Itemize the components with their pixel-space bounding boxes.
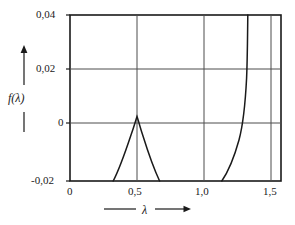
xtick-label-1_5: 1,5	[263, 186, 277, 197]
chart-figure: 0,04 0,02 0 -0,02 0 0,5 1,0 1,5 f(λ) λ	[0, 0, 295, 225]
y-axis-arrow-group	[21, 45, 28, 132]
up-arrow-icon	[21, 45, 28, 53]
x-axis-title: λ	[142, 203, 147, 218]
ytick-label-0: 0	[58, 117, 64, 128]
ytick-label-0_04: 0,04	[36, 9, 55, 20]
xtick-label-0: 0	[67, 186, 73, 197]
plot-frame	[70, 15, 281, 181]
xtick-label-1_0: 1,0	[195, 186, 209, 197]
right-arrow-icon	[184, 206, 192, 212]
ytick-label-m0_02: -0,02	[31, 175, 54, 186]
plot-canvas	[0, 0, 295, 225]
x-axis-arrow-group	[104, 206, 191, 212]
ytick-label-0_02: 0,02	[36, 63, 55, 74]
y-axis-title: f(λ)	[8, 91, 25, 106]
xtick-label-0_5: 0,5	[128, 186, 142, 197]
